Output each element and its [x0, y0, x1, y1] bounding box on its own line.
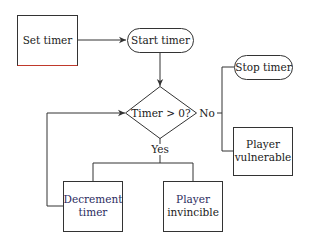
start-timer-label: Start timer [131, 34, 191, 46]
player-vulnerable-line2: vulnerable [234, 151, 292, 163]
node-player-invincible: Player invincible [164, 182, 223, 232]
flowchart-canvas: Set timer Start timer Timer > 0? No Yes … [0, 0, 310, 244]
player-invincible-line1: Player [176, 193, 211, 205]
edge-yes-branch [93, 163, 193, 181]
node-stop-timer: Stop timer [235, 56, 293, 80]
decrement-timer-line2: timer [79, 206, 109, 218]
decrement-timer-line1: Decrement [64, 193, 124, 205]
node-player-vulnerable: Player vulnerable [234, 128, 293, 176]
player-vulnerable-line1: Player [246, 138, 281, 150]
yes-label: Yes [150, 143, 169, 155]
edge-no-branch [222, 67, 234, 151]
stop-timer-label: Stop timer [235, 61, 293, 73]
no-label: No [199, 107, 215, 119]
decision-label: Timer > 0? [131, 107, 191, 119]
node-decision: Timer > 0? [126, 87, 197, 139]
node-start-timer: Start timer [128, 29, 194, 53]
set-timer-label: Set timer [23, 34, 74, 46]
player-invincible-line2: invincible [167, 206, 219, 218]
node-decrement-timer: Decrement timer [64, 182, 124, 232]
node-set-timer: Set timer [18, 16, 78, 66]
